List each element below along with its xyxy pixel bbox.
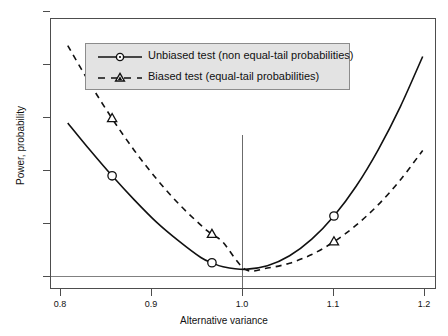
legend-key-triangle-dashed-icon bbox=[96, 67, 144, 89]
legend-label-biased: Biased test (equal-tail probabilities) bbox=[148, 70, 319, 82]
y-tick-mark bbox=[43, 223, 50, 224]
x-tick-label: 1.0 bbox=[222, 299, 262, 309]
x-tick-mark bbox=[333, 289, 334, 296]
x-axis-label: Alternative variance bbox=[0, 315, 448, 326]
y-tick-mark bbox=[43, 64, 50, 65]
y-tick-mark bbox=[43, 117, 50, 118]
x-tick-label: 1.1 bbox=[313, 299, 353, 309]
x-tick-mark bbox=[424, 289, 425, 296]
x-tick-mark bbox=[242, 289, 243, 296]
legend-key-circle-solid-icon bbox=[96, 46, 144, 68]
legend-entry-unbiased: Unbiased test (non equal-tail probabilit… bbox=[86, 46, 349, 68]
horizontal-reference-line-0.05 bbox=[51, 276, 435, 277]
x-tick-label: 1.2 bbox=[404, 299, 444, 309]
y-tick-mark bbox=[43, 276, 50, 277]
x-tick-mark bbox=[151, 289, 152, 296]
chart-figure: 0.05 0.06 0.07 0.08 0.09 0.10 0.8 0.9 1.… bbox=[0, 0, 448, 336]
vertical-reference-line-1.0 bbox=[242, 135, 243, 288]
x-tick-label: 0.8 bbox=[40, 299, 80, 309]
x-tick-mark bbox=[60, 289, 61, 296]
y-axis-label: Power, probability bbox=[15, 71, 26, 221]
legend-label-unbiased: Unbiased test (non equal-tail probabilit… bbox=[148, 49, 353, 61]
y-tick-mark bbox=[43, 11, 50, 12]
chart-legend: Unbiased test (non equal-tail probabilit… bbox=[85, 43, 350, 90]
x-tick-label: 0.9 bbox=[131, 299, 171, 309]
legend-entry-biased: Biased test (equal-tail probabilities) bbox=[86, 67, 349, 89]
y-tick-mark bbox=[43, 170, 50, 171]
